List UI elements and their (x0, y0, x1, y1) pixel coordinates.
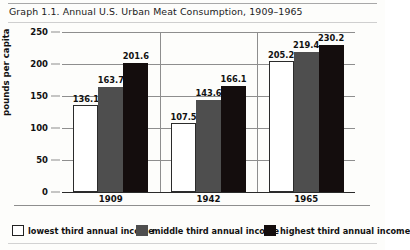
top-divider (8, 3, 377, 4)
bar: 219.4 (294, 52, 319, 192)
y-axis-tick-label: 50 (22, 155, 48, 165)
y-axis-tick (51, 192, 60, 193)
legend-item[interactable]: highest third annual income (264, 224, 410, 237)
bar: 143.6 (196, 100, 221, 192)
bar: 107.5 (171, 123, 196, 192)
bar: 166.1 (221, 86, 246, 192)
chart-title: Graph 1.1. Annual U.S. Urban Meat Consum… (9, 6, 377, 17)
y-axis-tick (51, 64, 60, 65)
legend-item[interactable]: middle third annual income (136, 224, 279, 237)
x-axis-tick-label: 1942 (197, 194, 221, 204)
y-axis-tick-label: 200 (22, 59, 48, 69)
legend-item[interactable]: lowest third annual income (12, 224, 154, 237)
bar-value-label: 107.5 (170, 112, 196, 122)
legend-label: middle third annual income (152, 226, 279, 236)
x-axis-tick-label: 1909 (99, 194, 123, 204)
bar-value-label: 136.1 (73, 94, 99, 104)
chart-legend: lowest third annual incomemiddle third a… (12, 224, 374, 238)
legend-label: lowest third annual income (28, 226, 154, 236)
bottom-divider (8, 243, 377, 244)
y-axis-tick-label: 0 (22, 187, 48, 197)
y-axis-tick (51, 128, 60, 129)
bar-value-label: 166.1 (220, 74, 246, 84)
legend-label: highest third annual income (280, 226, 410, 236)
y-axis-tick (51, 32, 60, 33)
gridline (62, 32, 355, 33)
bar-value-label: 230.2 (318, 33, 344, 43)
y-axis-label: pounds per capita (1, 28, 11, 116)
bar: 136.1 (73, 105, 98, 192)
gridline (62, 192, 355, 193)
bar-value-label: 205.2 (268, 50, 294, 60)
bar-value-label: 219.4 (293, 40, 319, 50)
legend-swatch-icon (264, 225, 276, 236)
bar: 205.2 (269, 61, 294, 192)
bar-value-label: 143.6 (195, 88, 221, 98)
group-separator (257, 32, 258, 192)
bar-value-label: 163.7 (98, 75, 124, 85)
bar-value-label: 201.6 (123, 51, 149, 61)
title-divider (8, 22, 377, 23)
bar: 201.6 (123, 63, 148, 192)
y-axis-tick-label: 250 (22, 27, 48, 37)
x-axis-tick-label: 1965 (294, 194, 318, 204)
bar: 163.7 (98, 87, 123, 192)
group-separator (160, 32, 161, 192)
plot-area: 050100150200250136.1163.7201.6107.5143.6… (62, 32, 355, 192)
y-axis-tick (51, 160, 60, 161)
y-axis-tick (51, 96, 60, 97)
y-axis-tick-label: 100 (22, 123, 48, 133)
bar: 230.2 (319, 45, 344, 192)
x-axis-divider (14, 205, 370, 206)
y-axis-tick-label: 150 (22, 91, 48, 101)
legend-swatch-icon (136, 225, 148, 236)
legend-swatch-icon (12, 225, 24, 236)
